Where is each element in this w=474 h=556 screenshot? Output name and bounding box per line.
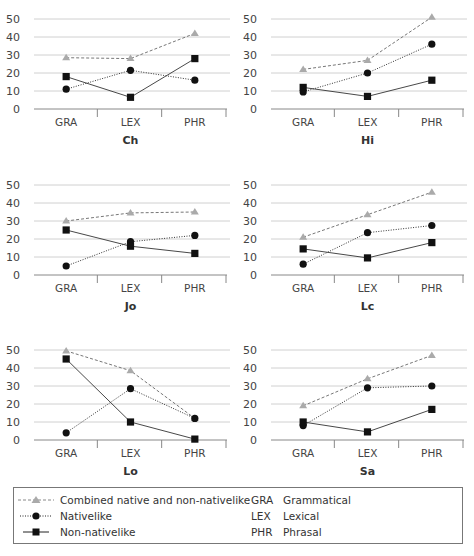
chart-jo: 01020304050GRALEXPHRJo [0,166,237,331]
y-tick-label: 20 [243,233,257,246]
square-marker [300,245,307,252]
chart-title: Lo [123,465,138,478]
x-tick-label: LEX [121,116,141,128]
y-tick-label: 10 [243,251,257,264]
y-tick-label: 50 [243,179,257,192]
y-tick-label: 0 [13,103,20,116]
x-tick-label: LEX [121,447,141,459]
y-tick-label: 40 [6,362,20,375]
square-marker [300,84,307,91]
legend-item-nativelike: Nativelike [14,508,112,523]
x-tick-label: GRA [55,116,78,128]
legend-item-nonnativelike: Non-nativelike [14,524,136,539]
circle-marker [300,261,307,268]
chart-panel-lo: 01020304050GRALEXPHRLo [0,331,237,496]
dashed-triangle-line-icon [16,492,56,507]
square-marker [364,428,371,435]
square-marker [428,77,435,84]
circle-marker [364,69,371,76]
y-tick-label: 0 [250,103,257,116]
x-tick-label: LEX [358,116,378,128]
y-tick-label: 40 [6,197,20,210]
chart-title: Lc [361,300,375,313]
y-tick-label: 10 [6,251,20,264]
x-tick-label: GRA [292,447,315,459]
chart-hi: 01020304050GRALEXPHRHi [237,0,474,165]
y-tick-label: 20 [6,398,20,411]
square-marker [364,254,371,261]
square-marker [127,243,134,250]
legend-abbr-gra: GRA Grammatical [251,492,351,507]
y-tick-label: 50 [6,13,20,26]
circle-marker [191,415,198,422]
legend-label: Nativelike [60,510,112,522]
chart-title: Hi [361,134,374,147]
legend-box: Combined native and non-nativelike Nativ… [13,487,463,544]
y-tick-label: 10 [6,416,20,429]
dotted-circle-line-icon [16,508,56,523]
y-tick-label: 10 [243,85,257,98]
y-tick-label: 0 [13,269,20,282]
circle-marker [63,429,70,436]
triangle-marker [428,188,436,195]
circle-marker [191,77,198,84]
y-tick-label: 10 [243,416,257,429]
legend-abbr-phr: PHR Phrasal [251,524,322,539]
y-tick-label: 20 [243,67,257,80]
y-tick-label: 0 [13,434,20,447]
x-tick-label: PHR [421,447,443,459]
y-tick-label: 50 [243,13,257,26]
y-tick-label: 0 [250,434,257,447]
y-tick-label: 20 [6,233,20,246]
x-tick-label: GRA [292,282,315,294]
triangle-marker [428,13,436,20]
circle-marker [191,232,198,239]
chart-ch: 01020304050GRALEXPHRCh [0,0,237,165]
triangle-marker [191,29,199,36]
chart-title: Sa [360,465,375,478]
triangle-marker [191,208,199,215]
x-tick-label: PHR [421,116,443,128]
circle-marker [364,229,371,236]
circle-marker [428,382,435,389]
x-tick-label: PHR [184,116,206,128]
series-line [66,351,195,419]
chart-panel-hi: 01020304050GRALEXPHRHi [237,0,474,165]
y-tick-label: 50 [6,344,20,357]
chart-panel-sa: 01020304050GRALEXPHRSa [237,331,474,496]
abbr-full: Grammatical [283,494,351,506]
y-tick-label: 30 [243,49,257,62]
y-tick-label: 40 [243,31,257,44]
x-tick-label: GRA [292,116,315,128]
y-tick-label: 20 [243,398,257,411]
y-tick-label: 40 [243,197,257,210]
y-tick-label: 20 [6,67,20,80]
square-marker [300,418,307,425]
circle-marker [63,86,70,93]
y-tick-label: 30 [6,49,20,62]
circle-marker [428,222,435,229]
x-tick-label: GRA [55,282,78,294]
y-tick-label: 50 [6,179,20,192]
circle-marker [364,384,371,391]
triangle-marker [364,56,372,63]
y-tick-label: 40 [6,31,20,44]
circle-marker [63,262,70,269]
legend-label: Combined native and non-nativelike [60,494,250,506]
legend-item-combined: Combined native and non-nativelike [14,492,250,507]
square-marker [191,55,198,62]
chart-panel-ch: 01020304050GRALEXPHRCh [0,0,237,165]
x-tick-label: PHR [184,447,206,459]
x-tick-label: GRA [55,447,78,459]
chart-lo: 01020304050GRALEXPHRLo [0,331,237,496]
circle-marker [428,41,435,48]
legend-abbr-lex: LEX Lexical [251,508,319,523]
abbr-code: PHR [251,526,283,538]
series-line [66,389,195,433]
abbr-code: GRA [251,494,283,506]
circle-marker [127,67,134,74]
y-tick-label: 30 [243,215,257,228]
abbr-code: LEX [251,510,283,522]
y-tick-label: 10 [6,85,20,98]
square-marker [63,355,70,362]
